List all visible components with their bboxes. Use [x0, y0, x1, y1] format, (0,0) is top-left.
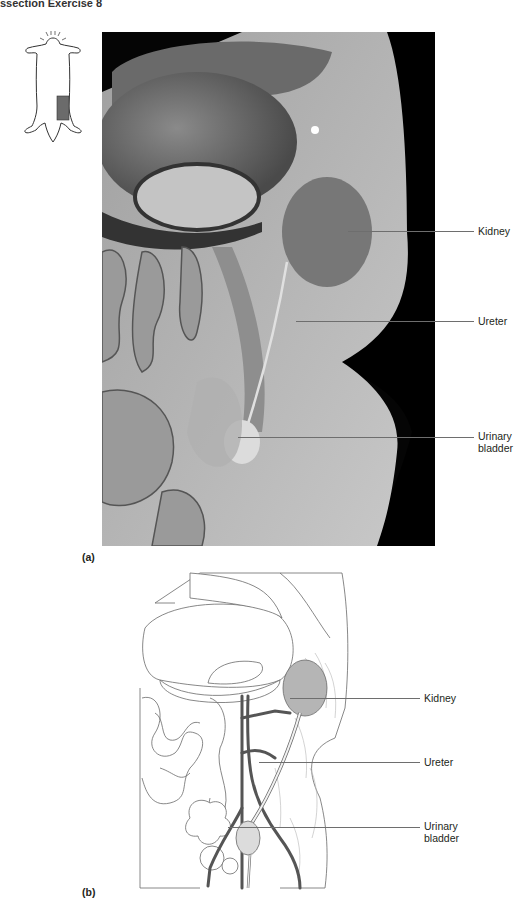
urinary-bladder-label-a: Urinary bladder [478, 430, 513, 454]
kidney-label-a: Kidney [478, 225, 510, 237]
page-header: ssection Exercise 8 [0, 0, 102, 9]
kidney-leader-line-a [348, 231, 474, 232]
cat-orientation-icon [22, 30, 84, 145]
kidney-label-b: Kidney [424, 692, 456, 704]
ureter-label-a: Ureter [478, 315, 507, 327]
dissection-photo [102, 32, 435, 546]
urinary-bladder-leader-line-b [228, 827, 420, 828]
panel-letter-a: (a) [82, 551, 95, 563]
anatomy-line-drawing [130, 568, 380, 898]
ureter-label-b: Ureter [424, 756, 453, 768]
panel-letter-b: (b) [82, 886, 95, 898]
urinary-bladder-leader-line-a [238, 437, 474, 438]
urinary-bladder-label-b: Urinary bladder [424, 820, 459, 844]
ureter-leader-line-b [259, 762, 420, 763]
kidney-leader-line-b [290, 698, 420, 699]
kidney-shape [283, 660, 327, 716]
ureter-leader-line-a [296, 321, 474, 322]
highlight-region [57, 96, 69, 120]
